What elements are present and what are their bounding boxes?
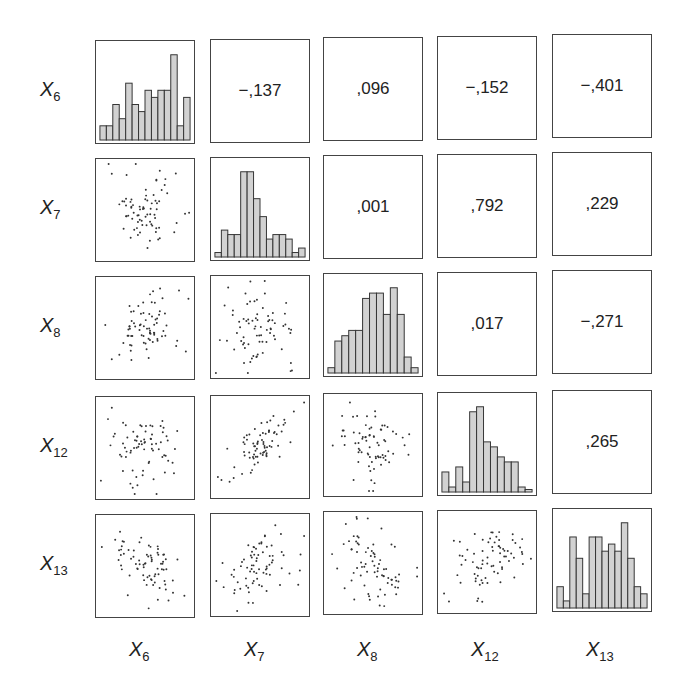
correlation-cell-x7-x12: ,792 [437, 154, 537, 258]
histogram-x12 [437, 392, 537, 496]
scatter-x12-x6 [95, 396, 195, 500]
correlation-value: ,229 [553, 153, 651, 255]
scatter-x13-x6 [95, 514, 195, 618]
histogram-x13 [552, 508, 652, 612]
row-label-x13: X13 [40, 552, 68, 578]
correlation-value: −,152 [438, 37, 536, 139]
row-label-x6: X6 [40, 78, 61, 104]
scatter-x13-x8 [323, 511, 423, 615]
correlation-value: ,096 [324, 38, 422, 140]
row-label-x7: X7 [40, 196, 61, 222]
correlation-value: −,271 [553, 271, 651, 373]
correlation-cell-x12-x13: ,265 [552, 390, 652, 494]
histogram-x6 [95, 40, 195, 144]
col-label-x12: X12 [471, 638, 499, 664]
scatter-x13-x7 [210, 513, 310, 617]
correlation-cell-x6-x12: −,152 [437, 36, 537, 140]
scatter-x8-x7 [210, 275, 310, 379]
correlation-value: −,401 [553, 35, 651, 137]
scatter-matrix: X6−,137,096−,152−,401X7,001,792,229X8,01… [0, 0, 692, 695]
col-label-x7: X7 [244, 638, 265, 664]
scatter-x8-x6 [95, 276, 195, 380]
scatter-x7-x6 [95, 158, 195, 262]
correlation-value: −,137 [211, 40, 309, 142]
col-label-x13: X13 [586, 638, 614, 664]
scatter-x13-x12 [437, 510, 537, 614]
row-label-x8: X8 [40, 314, 61, 340]
histogram-x8 [323, 273, 423, 377]
histogram-x7 [210, 157, 310, 261]
scatter-x12-x7 [210, 395, 310, 499]
correlation-cell-x7-x8: ,001 [323, 155, 423, 259]
correlation-cell-x6-x8: ,096 [323, 37, 423, 141]
correlation-cell-x7-x13: ,229 [552, 152, 652, 256]
scatter-x12-x8 [323, 393, 423, 497]
col-label-x6: X6 [129, 638, 150, 664]
correlation-value: ,265 [553, 391, 651, 493]
correlation-cell-x6-x7: −,137 [210, 39, 310, 143]
correlation-value: ,001 [324, 156, 422, 258]
correlation-value: ,017 [438, 273, 536, 375]
col-label-x8: X8 [357, 638, 378, 664]
correlation-value: ,792 [438, 155, 536, 257]
correlation-cell-x6-x13: −,401 [552, 34, 652, 138]
correlation-cell-x8-x12: ,017 [437, 272, 537, 376]
correlation-cell-x8-x13: −,271 [552, 270, 652, 374]
row-label-x12: X12 [40, 434, 68, 460]
